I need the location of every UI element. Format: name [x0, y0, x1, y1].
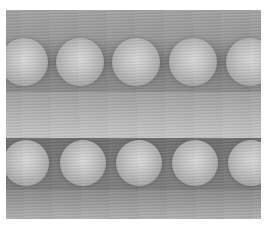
top-row-sphere	[112, 38, 160, 86]
bottom-row-sphere	[60, 140, 106, 186]
bottom-row-sphere	[172, 140, 218, 186]
bottom-row-sphere	[116, 140, 162, 186]
middle-light-band	[6, 92, 261, 138]
top-row-sphere	[56, 38, 104, 86]
sphere-image	[6, 10, 261, 219]
top-row-sphere	[169, 38, 217, 86]
